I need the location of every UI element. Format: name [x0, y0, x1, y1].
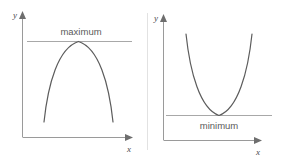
y-axis-arrowhead: [19, 11, 26, 19]
y-axis-arrowhead: [160, 14, 167, 22]
maximum-panel: y x maximum: [12, 10, 133, 154]
upward-parabola-curve: [186, 34, 252, 116]
x-axis-label: x: [126, 144, 131, 154]
x-axis-arrowhead: [125, 134, 133, 141]
figure-canvas: y x maximum y x: [0, 0, 286, 164]
downward-parabola-curve: [44, 42, 113, 123]
minimum-label: minimum: [200, 120, 239, 131]
maximum-label: maximum: [60, 26, 101, 37]
y-axis-label: y: [153, 13, 158, 23]
minimum-panel: y x minimum: [153, 13, 272, 157]
extrema-figure: y x maximum y x: [0, 0, 286, 164]
x-axis-label: x: [255, 147, 260, 157]
x-axis-arrowhead: [254, 137, 262, 144]
y-axis-label: y: [12, 10, 17, 20]
